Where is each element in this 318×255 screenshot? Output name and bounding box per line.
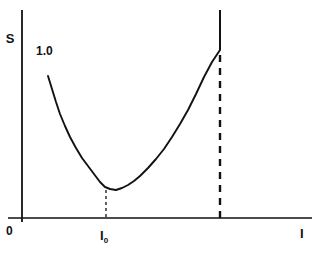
x-tick-label-i0-subscript: 0 <box>104 236 109 245</box>
x-axis-label: I <box>300 226 304 241</box>
chart-background <box>0 0 318 255</box>
entropy-vs-intensity-chart: S 1.0 0 I0 I <box>0 0 318 255</box>
y-axis-label: S <box>6 31 15 46</box>
curve-start-value-label: 1.0 <box>36 44 53 58</box>
origin-label: 0 <box>6 224 13 238</box>
